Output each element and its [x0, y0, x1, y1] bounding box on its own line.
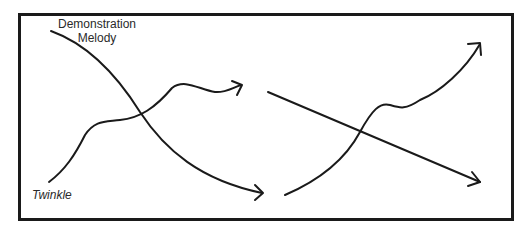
twinkle-label: Twinkle [32, 188, 72, 202]
demonstration-label-line1: Demonstration [58, 17, 136, 31]
twinkle-curve [49, 84, 241, 182]
wavy-ascending-curve [285, 44, 480, 195]
straight-descending-line [268, 92, 480, 182]
demonstration-melody-label: Demonstration Melody [58, 17, 136, 45]
demonstration-label-line2: Melody [58, 31, 136, 45]
demonstration-melody-curve [51, 31, 262, 193]
